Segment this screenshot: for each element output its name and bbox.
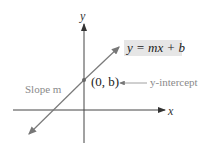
point-label: (0, b) [91,75,119,88]
intercept-point [82,78,86,82]
slope-label: Slope m [25,84,61,95]
equation-label: y = mx + b [127,41,185,54]
y-axis-label: y [80,10,85,22]
x-axis-label: x [168,105,173,117]
intercept-label: y-intercept [150,77,198,88]
